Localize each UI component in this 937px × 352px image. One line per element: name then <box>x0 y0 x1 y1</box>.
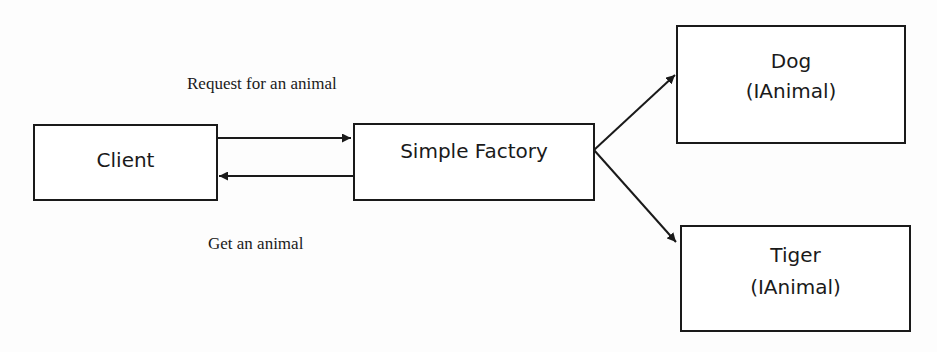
simple-factory-node: Simple Factory <box>353 123 595 201</box>
tiger-interface-label: (IAnimal) <box>682 273 909 301</box>
client-node: Client <box>33 124 218 201</box>
tiger-node: Tiger (IAnimal) <box>680 225 911 332</box>
simple-factory-label: Simple Factory <box>355 137 593 165</box>
dog-interface-label: (IAnimal) <box>678 77 904 105</box>
diagram-canvas: Request for an animal Get an animal Clie… <box>0 0 937 352</box>
dog-node: Dog (IAnimal) <box>676 25 906 144</box>
request-label: Request for an animal <box>187 74 337 94</box>
dog-label: Dog <box>678 47 904 75</box>
tiger-label: Tiger <box>682 241 909 269</box>
response-label: Get an animal <box>208 234 303 254</box>
client-label: Client <box>35 146 216 174</box>
factory-to-tiger-arrow <box>594 150 676 242</box>
factory-to-dog-arrow <box>594 75 675 150</box>
